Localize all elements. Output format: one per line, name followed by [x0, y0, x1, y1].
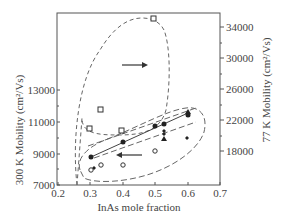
y-right-axis-title: 77 K Mobility (cm²/Vs) — [260, 37, 273, 142]
svg-text:0.5: 0.5 — [148, 187, 162, 199]
svg-text:0.7: 0.7 — [213, 187, 227, 199]
y-right-axis-ticks — [220, 27, 224, 151]
svg-text:26000: 26000 — [226, 83, 254, 95]
svg-text:22000: 22000 — [226, 114, 254, 126]
dashed-ellipse-77k — [75, 18, 169, 185]
y-left-axis-tick-labels: 7000 9000 11000 13000 — [28, 84, 56, 191]
svg-text:30000: 30000 — [226, 52, 254, 64]
arrow-left-icon — [116, 152, 142, 158]
svg-text:18000: 18000 — [226, 145, 254, 157]
svg-text:0.3: 0.3 — [83, 187, 97, 199]
dashed-ellipse-300k — [79, 108, 205, 182]
mobility-chart: 0.2 0.3 0.4 0.5 0.6 0.7 InAs mole fracti… — [0, 0, 284, 219]
x-axis-tick-labels: 0.2 0.3 0.4 0.5 0.6 0.7 — [51, 187, 227, 199]
svg-text:34000: 34000 — [226, 21, 254, 33]
svg-text:7000: 7000 — [33, 179, 56, 191]
y-right-axis-tick-labels: 34000 30000 26000 22000 18000 — [226, 21, 254, 157]
svg-text:11000: 11000 — [28, 116, 56, 128]
svg-text:9000: 9000 — [33, 148, 56, 160]
plot-frame — [57, 13, 220, 185]
x-axis-title: InAs mole fraction — [97, 201, 181, 213]
series-300k-filled-circles — [89, 113, 191, 160]
svg-text:13000: 13000 — [28, 84, 56, 96]
arrow-right-icon — [122, 62, 148, 68]
series-300k-open-circles — [89, 149, 157, 172]
svg-text:0.4: 0.4 — [116, 187, 130, 199]
y-left-axis-title: 300 K Mobility (cm²/Vs) — [13, 74, 26, 185]
svg-text:0.6: 0.6 — [181, 187, 195, 199]
dashed-band-lower — [94, 122, 196, 158]
series-77k-open-squares — [87, 16, 156, 133]
